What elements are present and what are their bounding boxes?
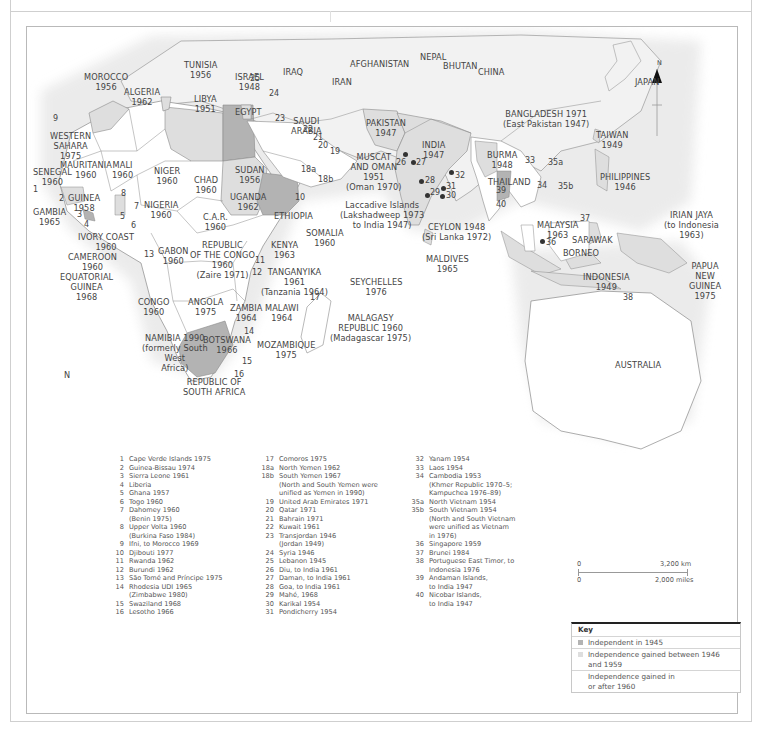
marker-3: 3 (77, 210, 82, 220)
marker-18b: 18b (318, 175, 333, 185)
footnote-number: 6 (108, 498, 129, 507)
footnote-text: Togo 1960 (129, 498, 163, 507)
footnote-text: Karikal 1954 (279, 600, 320, 609)
label-mozambique: MOZAMBIQUE 1975 (257, 340, 315, 360)
label-botswana: BOTSWANA 1966 (203, 335, 251, 355)
footnote-number: 5 (108, 489, 129, 498)
marker-22: 22 (303, 125, 313, 135)
label-thailand: THAILAND (488, 177, 531, 187)
footnote-item: 30Karikal 1954 (258, 600, 408, 609)
footnote-item: 15Swaziland 1968 (108, 600, 258, 609)
footnote-item: 20Qatar 1971 (258, 506, 408, 515)
compass-label: N (657, 58, 662, 68)
marker-14: 14 (244, 327, 254, 337)
key-title: Key (572, 624, 740, 637)
footnote-item: 33Laos 1954 (408, 464, 558, 473)
footnote-number: 27 (258, 574, 279, 583)
footnote-number: 4 (108, 481, 129, 490)
marker-19: 19 (330, 147, 340, 157)
footnote-item: 24Syria 1946 (258, 549, 408, 558)
footnote-text: Laos 1954 (429, 464, 463, 473)
label-uganda: UGANDA 1962 (230, 192, 266, 212)
footnote-item: 3Sierra Leone 1961 (108, 472, 258, 481)
label-irian-jaya: IRIAN JAYA (to Indonesia 1963) (664, 210, 719, 240)
footnote-item: 39Andaman Islands, to India 1947 (408, 574, 558, 591)
label-philippines: PHILIPPINES 1946 (600, 172, 650, 192)
swatch-1960-after (578, 674, 583, 679)
footnote-text: Bahrain 1971 (279, 515, 323, 524)
label-algeria: ALGERIA 1962 (124, 87, 160, 107)
marker-7: 7 (134, 202, 139, 212)
marker-dot-36 (540, 239, 545, 244)
footnote-number: 7 (108, 506, 129, 523)
footnote-text: São Tomé and Príncipe 1975 (129, 574, 223, 583)
footnote-text: Singapore 1959 (429, 540, 481, 549)
label-rep-congo: REPUBLIC OF THE CONGO 1960 (Zaire 1971) (190, 240, 255, 280)
footnote-text: Ghana 1957 (129, 489, 169, 498)
footnote-number: 13 (108, 574, 129, 583)
footnote-text: Syria 1946 (279, 549, 315, 558)
label-india: INDIA 1947 (422, 140, 445, 160)
label-guinea: GUINEA 1958 (68, 193, 100, 213)
marker-16: 16 (234, 370, 244, 380)
label-tunisia: TUNISIA 1956 (184, 60, 217, 80)
swatch-1945 (578, 640, 583, 645)
marker-2: 2 (59, 194, 64, 204)
marker-25: 25 (250, 74, 260, 84)
footnote-number: 16 (108, 608, 129, 617)
footnote-text: Liberia (129, 481, 151, 490)
footnote-item: 37Brunei 1984 (408, 549, 558, 558)
footnote-number: 10 (108, 549, 129, 558)
footnote-number: 31 (258, 608, 279, 617)
footnote-item: 2Guinea-Bissau 1974 (108, 464, 258, 473)
marker-15: 15 (242, 357, 252, 367)
label-australia: AUSTRALIA (615, 360, 661, 370)
marker-11: 11 (255, 256, 265, 266)
footnote-text: Brunei 1984 (429, 549, 469, 558)
marker-dot-32 (449, 170, 454, 175)
footnote-text: Rwanda 1962 (129, 557, 174, 566)
footnote-text: Cape Verde Islands 1975 (129, 455, 211, 464)
footnote-number: 15 (108, 600, 129, 609)
footnote-text: North Yemen 1962 (279, 464, 340, 473)
footnote-text: Daman, to India 1961 (279, 574, 351, 583)
marker-34: 34 (537, 181, 547, 191)
footnote-text: Kuwait 1961 (279, 523, 320, 532)
footnote-number: 26 (258, 566, 279, 575)
footnote-text: Lesotho 1966 (129, 608, 174, 617)
footnote-item: 35bSouth Vietnam 1954 (North and South V… (408, 506, 558, 540)
footnote-item: 27Daman, to India 1961 (258, 574, 408, 583)
label-egypt: EGYPT (235, 107, 262, 117)
footnote-number: 35a (408, 498, 429, 507)
footnote-text: South Vietnam 1954 (North and South Viet… (429, 506, 515, 540)
footnote-text: Cambodia 1953 (Khmer Republic 1970–5; Ka… (429, 472, 512, 498)
marker-40: 40 (496, 200, 506, 210)
label-nigeria: NIGERIA 1960 (144, 200, 178, 220)
footnote-item: 12Burundi 1962 (108, 566, 258, 575)
label-south-africa: REPUBLIC OF SOUTH AFRICA (183, 377, 245, 397)
scale-mi-zero: 0 (577, 576, 581, 584)
marker-9: 9 (53, 114, 58, 124)
footnote-item: 28Goa, to India 1961 (258, 583, 408, 592)
footnote-number: 28 (258, 583, 279, 592)
label-bhutan: BHUTAN (443, 61, 477, 71)
footnote-number: 3 (108, 472, 129, 481)
scale-km-zero: 0 (577, 560, 581, 568)
label-ocean-n: N (64, 370, 70, 380)
footnote-item: 19United Arab Emirates 1971 (258, 498, 408, 507)
label-ivory-coast: IVORY COAST 1960 (78, 232, 134, 252)
top-divider (10, 11, 752, 12)
label-iran: IRAN (332, 77, 352, 87)
marker-29: 29 (430, 188, 440, 198)
marker-23: 23 (275, 114, 285, 124)
footnote-number: 39 (408, 574, 429, 591)
footnote-item: 1Cape Verde Islands 1975 (108, 455, 258, 464)
footnote-item: 7Dahomey 1960 (Benin 1975) (108, 506, 258, 523)
footnote-item: 35aNorth Vietnam 1954 (408, 498, 558, 507)
label-iraq: IRAQ (283, 67, 303, 77)
footnote-item: 36Singapore 1959 (408, 540, 558, 549)
footnote-number: 18a (258, 464, 279, 473)
footnote-text: Portuguese East Timor, to Indonesia 1976 (429, 557, 514, 574)
footnote-number: 32 (408, 455, 429, 464)
footnote-number: 9 (108, 540, 129, 549)
